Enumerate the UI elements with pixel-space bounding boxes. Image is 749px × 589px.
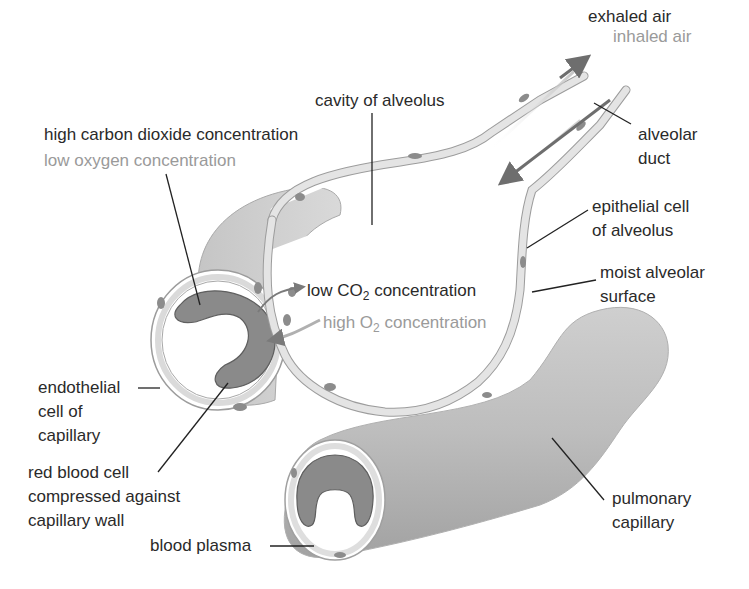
nucleus <box>295 193 305 201</box>
nucleus <box>324 383 336 391</box>
label-endothelial-line2: cell of <box>38 401 82 422</box>
nucleus <box>520 256 526 268</box>
label-blood-plasma: blood plasma <box>150 535 251 556</box>
label-rbc-line1: red blood cell <box>28 462 129 483</box>
label-high-o2-prefix: high O <box>323 313 373 332</box>
label-high-co2: high carbon dioxide concentration <box>44 124 298 145</box>
label-rbc-line3: capillary wall <box>28 510 124 531</box>
label-moist-line1: moist alveolar <box>600 262 705 283</box>
label-low-co2-prefix: low CO <box>307 281 363 300</box>
label-moist-line2: surface <box>600 286 656 307</box>
label-high-o2-subscript: 2 <box>373 321 380 335</box>
nucleus <box>254 282 262 294</box>
nucleus <box>233 403 247 411</box>
label-rbc-line2: compressed against <box>28 486 180 507</box>
nucleus <box>157 297 165 309</box>
label-alveolar-duct-line1: alveolar <box>638 124 698 145</box>
label-low-o2: low oxygen concentration <box>44 150 236 171</box>
label-pulmonary-line2: capillary <box>612 512 674 533</box>
label-alveolar-duct-line2: duct <box>638 148 670 169</box>
nucleus <box>334 552 346 558</box>
nucleus <box>408 153 422 159</box>
label-epithelial-line2: of alveolus <box>592 220 673 241</box>
label-high-o2-suffix: concentration <box>380 313 487 332</box>
label-inhaled-air: inhaled air <box>613 26 691 47</box>
nucleus <box>517 92 530 104</box>
label-low-co2-suffix: concentration <box>369 281 476 300</box>
label-pulmonary-line1: pulmonary <box>612 488 691 509</box>
label-endothelial-line3: capillary <box>38 425 100 446</box>
label-high-o2: high O2 concentration <box>323 312 487 333</box>
label-epithelial-line1: epithelial cell <box>592 196 689 217</box>
label-exhaled-air: exhaled air <box>588 6 671 27</box>
nucleus <box>283 314 291 326</box>
label-endothelial-line1: endothelial <box>38 377 120 398</box>
nucleus <box>482 392 492 398</box>
nucleus <box>291 468 297 478</box>
label-low-co2: low CO2 concentration <box>307 280 476 301</box>
label-cavity-of-alveolus: cavity of alveolus <box>315 90 444 111</box>
alveolus-gas-exchange-diagram: exhaled air inhaled air cavity of alveol… <box>0 0 749 589</box>
